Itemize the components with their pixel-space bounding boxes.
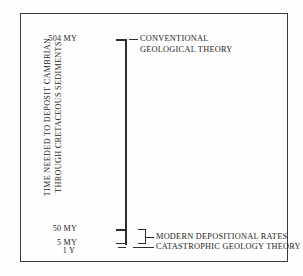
tick-label-504my: 504 MY — [49, 34, 77, 43]
y-axis-line — [125, 39, 127, 245]
leader-line-modern — [146, 237, 154, 238]
tick-label-1y: 1 Y — [63, 246, 75, 255]
caption-conventional-line-1: CONVENTIONAL — [140, 34, 233, 45]
figure-root: TIME NEEDED TO DEPOSIT CAMBRIAN THROUGH … — [0, 0, 303, 276]
figure-frame: TIME NEEDED TO DEPOSIT CAMBRIAN THROUGH … — [20, 13, 288, 262]
caption-catastrophic-geology-theory: CATASTROPHIC GEOLOGY THEORY — [156, 242, 301, 253]
tick-label-50my: 50 MY — [53, 224, 77, 233]
y-axis-title: TIME NEEDED TO DEPOSIT CAMBRIAN THROUGH … — [42, 29, 64, 205]
caption-conventional-geological-theory: CONVENTIONAL GEOLOGICAL THEORY — [140, 34, 233, 55]
tick-mark-1y — [118, 247, 126, 249]
leader-line-catastrophic — [133, 247, 154, 248]
tick-mark-5my — [116, 243, 126, 245]
caption-conventional-line-2: GEOLOGICAL THEORY — [140, 45, 233, 56]
range-bracket-modern-rates — [138, 229, 146, 244]
y-axis-title-line-1: TIME NEEDED TO DEPOSIT CAMBRIAN — [42, 29, 53, 205]
y-axis-title-line-2: THROUGH CRETACEOUS SEDIMENTS — [53, 29, 64, 205]
tick-mark-504my — [116, 39, 126, 41]
caption-modern-depositional-rates: MODERN DEPOSITIONAL RATES — [156, 232, 287, 243]
tick-mark-50my — [116, 229, 126, 231]
leader-line-conventional — [129, 39, 138, 40]
